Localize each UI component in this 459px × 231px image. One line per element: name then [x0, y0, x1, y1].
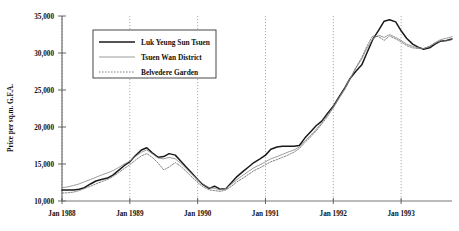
y-axis-label: Price per sq.m. G.F.A.: [7, 84, 15, 152]
x-tick-label: Jan 1992: [320, 210, 348, 218]
legend-label: Tsuen Wan District: [141, 53, 202, 62]
y-tick-label: 15,000: [34, 161, 54, 169]
legend: Luk Yeung Sun TsuenTsuen Wan DistrictBel…: [93, 30, 216, 78]
y-tick-label: 10,000: [34, 198, 54, 206]
price-index-line-chart: 10,00015,00020,00025,00030,00035,000 Jan…: [0, 0, 459, 231]
y-tick-label: 25,000: [34, 87, 54, 95]
legend-label: Belvedere Garden: [141, 68, 198, 77]
y-tick-label: 20,000: [34, 124, 54, 132]
y-tick-label: 35,000: [34, 13, 54, 21]
x-tick-label: Jan 1989: [116, 210, 144, 218]
y-tick-label: 30,000: [34, 50, 54, 58]
x-tick-label: Jan 1991: [252, 210, 280, 218]
x-tick-label: Jan 1993: [387, 210, 415, 218]
legend-label: Luk Yeung Sun Tsuen: [141, 38, 210, 47]
chart-canvas: 10,00015,00020,00025,00030,00035,000 Jan…: [0, 0, 459, 231]
x-tick-label: Jan 1990: [184, 210, 212, 218]
x-tick-label: Jan 1988: [48, 210, 76, 218]
y-axis-ticks: 10,00015,00020,00025,00030,00035,000: [34, 13, 66, 206]
